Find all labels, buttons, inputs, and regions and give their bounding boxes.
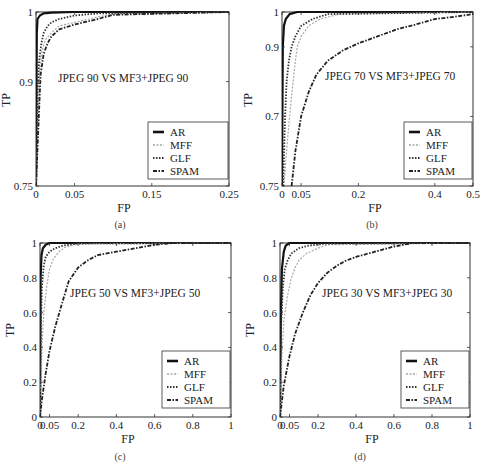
legend-label-mff: MFF bbox=[423, 368, 445, 380]
y-tick-label: 0.8 bbox=[263, 272, 277, 284]
legend-label-spam: SPAM bbox=[426, 165, 455, 177]
x-tick-label: 0 bbox=[33, 188, 39, 200]
y-axis-label: TP bbox=[243, 323, 257, 337]
x-tick-label: 0.8 bbox=[425, 419, 439, 431]
x-tick-label: 0.05 bbox=[280, 419, 300, 431]
x-tick-label: 0.4 bbox=[110, 419, 124, 431]
panel-caption: (a) bbox=[114, 219, 125, 231]
y-tick-label: 0.2 bbox=[23, 376, 37, 388]
legend-label-spam: SPAM bbox=[184, 394, 213, 406]
legend-label-spam: SPAM bbox=[423, 394, 452, 406]
y-tick-label: 0.75 bbox=[260, 180, 280, 192]
y-tick-label: 0.6 bbox=[263, 307, 277, 319]
legend: ARMFFGLFSPAM bbox=[404, 122, 472, 179]
y-tick-label: 1 bbox=[274, 6, 280, 18]
y-tick-label: 0.4 bbox=[23, 341, 37, 353]
x-tick-label: 0.25 bbox=[219, 188, 239, 200]
y-tick-label: 0.9 bbox=[19, 76, 33, 88]
legend-label-mff: MFF bbox=[184, 368, 206, 380]
y-tick-label: 1 bbox=[272, 237, 278, 249]
legend: ARMFFGLFSPAM bbox=[148, 122, 228, 179]
chart-title: JPEG 50 VS MF3+JPEG 50 bbox=[70, 287, 201, 299]
y-axis-label: TP bbox=[3, 323, 17, 337]
y-axis-label: TP bbox=[241, 93, 255, 107]
legend: ARMFFGLFSPAM bbox=[401, 351, 469, 408]
x-tick-label: 1 bbox=[228, 419, 234, 431]
legend-label-ar: AR bbox=[170, 126, 186, 138]
panel-caption: (d) bbox=[354, 451, 366, 463]
legend-label-glf: GLF bbox=[426, 152, 447, 164]
x-tick-label: 0.15 bbox=[142, 188, 162, 200]
legend-label-glf: GLF bbox=[423, 381, 444, 393]
legend-label-spam: SPAM bbox=[170, 165, 199, 177]
x-tick-label: 0.8 bbox=[186, 419, 200, 431]
legend: ARMFFGLFSPAM bbox=[162, 351, 230, 408]
x-tick-label: 0.05 bbox=[65, 188, 85, 200]
panel-caption: (c) bbox=[114, 451, 125, 463]
legend-label-glf: GLF bbox=[184, 381, 205, 393]
x-tick-label: 0.05 bbox=[291, 188, 311, 200]
x-tick-label: 0.4 bbox=[428, 188, 442, 200]
chart-title: JPEG 90 VS MF3+JPEG 90 bbox=[58, 72, 189, 84]
y-tick-label: 1 bbox=[32, 237, 38, 249]
roc-figure: 00.050.150.250.750.91FPTPJPEG 90 VS MF3+… bbox=[0, 0, 482, 468]
legend-label-ar: AR bbox=[184, 355, 200, 367]
y-tick-label: 0.4 bbox=[263, 341, 277, 353]
y-tick-label: 0 bbox=[32, 411, 38, 423]
y-tick-label: 0 bbox=[272, 411, 278, 423]
x-tick-label: 0.5 bbox=[466, 188, 480, 200]
chart-title: JPEG 70 VS MF3+JPEG 70 bbox=[325, 70, 456, 82]
chart-panel-a: 00.050.150.250.750.91FPTPJPEG 90 VS MF3+… bbox=[0, 6, 239, 231]
x-tick-label: 0.4 bbox=[349, 419, 363, 431]
x-tick-label: 0.2 bbox=[71, 419, 85, 431]
x-axis-label: FP bbox=[121, 432, 135, 446]
x-tick-label: 0.2 bbox=[352, 188, 366, 200]
panel-caption: (b) bbox=[366, 219, 378, 231]
y-tick-label: 0.75 bbox=[14, 180, 34, 192]
x-tick-label: 0.6 bbox=[387, 419, 401, 431]
x-axis-label: FP bbox=[368, 201, 382, 215]
x-tick-label: 0.6 bbox=[148, 419, 162, 431]
x-tick-label: 1 bbox=[467, 419, 473, 431]
chart-panel-c: 00.050.20.40.60.8100.20.40.60.81FPTPJPEG… bbox=[3, 237, 234, 463]
x-tick-label: 0 bbox=[279, 188, 285, 200]
x-axis-label: FP bbox=[117, 201, 131, 215]
y-tick-label: 0.8 bbox=[23, 272, 37, 284]
legend-label-mff: MFF bbox=[426, 139, 448, 151]
y-tick-label: 0.9 bbox=[265, 41, 279, 53]
x-tick-label: 0.05 bbox=[40, 419, 60, 431]
chart-panel-b: 00.050.20.40.50.750.70.91FPTPJPEG 70 VS … bbox=[241, 6, 480, 231]
x-axis-label: FP bbox=[365, 432, 379, 446]
x-tick-label: 0.2 bbox=[311, 419, 325, 431]
y-tick-label: 0.2 bbox=[263, 376, 277, 388]
y-tick-label: 0.7 bbox=[265, 110, 279, 122]
chart-title: JPEG 30 VS MF3+JPEG 30 bbox=[322, 287, 453, 299]
legend-label-mff: MFF bbox=[170, 139, 192, 151]
legend-label-ar: AR bbox=[426, 126, 442, 138]
legend-label-ar: AR bbox=[423, 355, 439, 367]
y-tick-label: 0.6 bbox=[23, 307, 37, 319]
y-axis-label: TP bbox=[0, 93, 13, 107]
chart-panel-d: 00.050.20.40.60.8100.20.40.60.81FPTPJPEG… bbox=[243, 237, 473, 463]
y-tick-label: 1 bbox=[28, 6, 34, 18]
legend-label-glf: GLF bbox=[170, 152, 191, 164]
